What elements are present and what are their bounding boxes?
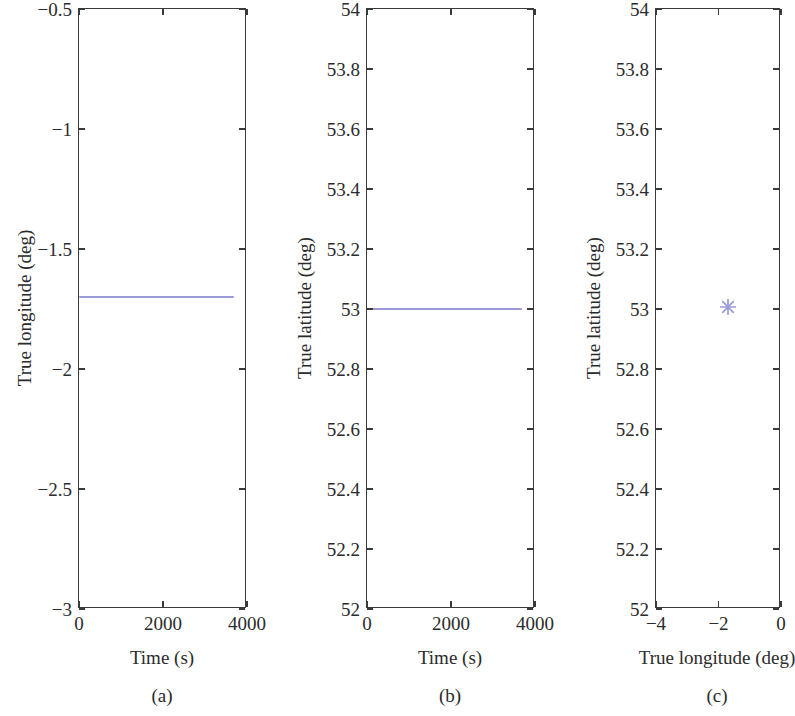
x-tick-label: 0 (776, 614, 786, 633)
x-tick-mark (450, 9, 451, 15)
y-axis-title-a: True longitude (deg) (15, 230, 34, 387)
y-tick-label: −1.5 (38, 240, 72, 259)
y-tick-label: 52.2 (327, 540, 360, 559)
y-tick-label: −2.5 (38, 480, 72, 499)
x-tick-mark (655, 601, 656, 607)
y-tick-label: −3 (52, 600, 72, 619)
y-tick-mark (656, 308, 662, 309)
x-tick-label: −4 (646, 614, 666, 633)
y-tick-mark (773, 428, 779, 429)
y-tick-mark (773, 368, 779, 369)
y-tick-mark (656, 128, 662, 129)
y-tick-mark (527, 488, 533, 489)
y-tick-label: 53.6 (327, 120, 360, 139)
y-tick-mark (773, 8, 779, 9)
y-tick-mark (79, 488, 85, 489)
y-tick-mark (527, 248, 533, 249)
y-tick-mark (239, 608, 245, 609)
panel-caption-c: (c) (706, 686, 727, 705)
y-tick-mark (527, 188, 533, 189)
y-tick-mark (656, 548, 662, 549)
x-tick-label: 4000 (516, 614, 554, 633)
x-tick-mark (718, 9, 719, 15)
y-tick-mark (527, 308, 533, 309)
y-tick-label: −1 (52, 120, 72, 139)
y-tick-mark (773, 548, 779, 549)
x-tick-mark (78, 601, 79, 607)
y-tick-label: 53.4 (616, 180, 649, 199)
y-tick-label: 52.2 (616, 540, 649, 559)
y-tick-label: 53.8 (327, 60, 360, 79)
y-tick-mark (656, 248, 662, 249)
y-tick-mark (656, 608, 662, 609)
y-tick-mark (239, 248, 245, 249)
y-tick-label: 53.4 (327, 180, 360, 199)
y-tick-mark (79, 368, 85, 369)
y-tick-mark (367, 368, 373, 369)
x-axis-title-c: True longitude (deg) (639, 648, 795, 667)
x-tick-mark (246, 9, 247, 15)
y-tick-mark (367, 488, 373, 489)
y-tick-label: 52.4 (616, 480, 649, 499)
y-tick-mark (527, 548, 533, 549)
x-tick-mark (718, 601, 719, 607)
x-tick-mark (655, 9, 656, 15)
y-tick-label: 52 (341, 600, 360, 619)
y-tick-mark (367, 128, 373, 129)
y-tick-mark (527, 368, 533, 369)
y-tick-mark (79, 248, 85, 249)
x-tick-mark (162, 601, 163, 607)
y-tick-label: 52.4 (327, 480, 360, 499)
y-tick-mark (656, 488, 662, 489)
x-tick-mark (780, 9, 781, 15)
x-tick-mark (366, 9, 367, 15)
panel-caption-a: (a) (151, 686, 172, 705)
x-axis-title-b: Time (s) (418, 648, 482, 667)
x-tick-mark (366, 601, 367, 607)
y-tick-mark (79, 608, 85, 609)
y-tick-mark (367, 248, 373, 249)
y-tick-mark (367, 428, 373, 429)
y-tick-mark (656, 428, 662, 429)
x-tick-label: 0 (362, 614, 372, 633)
y-tick-mark (656, 368, 662, 369)
y-tick-label: 53.2 (327, 240, 360, 259)
y-tick-label: −2 (52, 360, 72, 379)
y-tick-mark (773, 608, 779, 609)
x-tick-mark (246, 601, 247, 607)
y-tick-label: 53 (630, 300, 649, 319)
plot-area-a: −3−2.5−2−1.5−1−0.5020004000 (78, 8, 246, 608)
y-tick-mark (239, 488, 245, 489)
y-tick-mark (527, 8, 533, 9)
y-tick-mark (527, 428, 533, 429)
y-tick-mark (527, 68, 533, 69)
y-tick-mark (367, 68, 373, 69)
x-tick-mark (162, 9, 163, 15)
y-tick-mark (367, 188, 373, 189)
y-tick-mark (367, 608, 373, 609)
panel-caption-b: (b) (439, 686, 461, 705)
y-tick-mark (239, 8, 245, 9)
y-tick-mark (773, 248, 779, 249)
y-tick-label: 53.6 (616, 120, 649, 139)
plot-area-c: 5252.252.452.652.85353.253.453.653.854−4… (655, 8, 780, 608)
y-tick-mark (527, 608, 533, 609)
y-tick-mark (79, 8, 85, 9)
x-tick-mark (780, 601, 781, 607)
y-tick-label: 52.6 (327, 420, 360, 439)
y-axis-title-b: True latitude (deg) (295, 237, 314, 379)
data-line-latitude (367, 308, 522, 310)
y-tick-label: 53 (341, 300, 360, 319)
y-tick-label: 53.2 (616, 240, 649, 259)
y-tick-mark (367, 548, 373, 549)
y-tick-label: 52.8 (616, 360, 649, 379)
y-tick-mark (656, 188, 662, 189)
y-tick-mark (239, 128, 245, 129)
y-tick-mark (79, 128, 85, 129)
y-tick-mark (773, 308, 779, 309)
y-tick-label: 53.8 (616, 60, 649, 79)
x-tick-label: 2000 (432, 614, 470, 633)
data-line-longitude (79, 296, 234, 298)
y-tick-mark (773, 128, 779, 129)
